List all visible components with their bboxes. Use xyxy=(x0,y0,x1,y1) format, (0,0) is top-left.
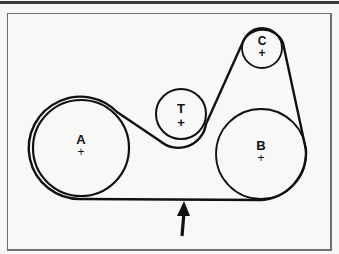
center-mark-b: + xyxy=(257,151,264,165)
label-t: T xyxy=(177,101,185,116)
center-mark-c: + xyxy=(258,46,265,60)
belt-diagram: A + T + C + B + xyxy=(0,0,339,254)
center-mark-t: + xyxy=(177,115,185,130)
center-mark-a: + xyxy=(77,145,84,159)
arrow-up-icon xyxy=(177,201,190,216)
